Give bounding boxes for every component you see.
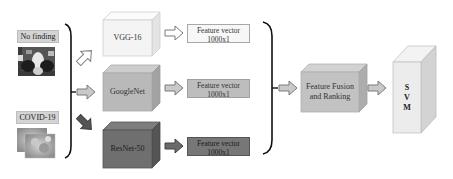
arrow-up-right-icon [75, 47, 95, 67]
fusion-label-line2: and Ranking [310, 92, 351, 102]
vgg16-label: VGG-16 [114, 33, 142, 43]
model-vgg16-block: VGG-16 [103, 12, 160, 56]
arrow-right-icon [76, 84, 96, 100]
covid-text: COVID-19 [20, 113, 56, 122]
fusion-label-line1: Feature Fusion [306, 82, 354, 92]
model-resnet50-block: ResNet-50 [103, 122, 160, 168]
svm-letter-v: V [404, 93, 410, 103]
arrow-right-icon [164, 80, 184, 96]
arrow-down-right-icon [75, 113, 95, 133]
feature-vector-title: Feature vector [188, 139, 249, 148]
feature-vector-size: 1000x1 [188, 35, 249, 44]
arrow-right-icon [367, 80, 387, 96]
feature-vector-size: 1000x1 [188, 90, 249, 99]
feature-vector-title: Feature vector [188, 26, 249, 35]
feature-fusion-block: Feature Fusion and Ranking [301, 64, 367, 112]
ct-scan-image-icon [17, 128, 55, 158]
feature-vector-resnet50: Feature vector 1000x1 [187, 137, 250, 156]
input-label-covid: COVID-19 [16, 111, 59, 124]
arrow-right-icon [164, 25, 184, 41]
arrow-right-icon [278, 80, 298, 96]
input-label-no-finding: No finding [17, 30, 59, 43]
arrow-right-icon [164, 138, 184, 154]
googlenet-label: GoogleNet [110, 87, 145, 97]
covid-image [17, 128, 55, 158]
right-bracket [262, 20, 278, 156]
svm-letter-m: M [403, 103, 411, 113]
feature-vector-title: Feature vector [188, 81, 249, 90]
model-googlenet-block: GoogleNet [103, 65, 160, 111]
feature-vector-vgg16: Feature vector 1000x1 [187, 24, 250, 43]
svm-letter-s: S [405, 83, 409, 93]
left-bracket [64, 22, 76, 162]
no-finding-image [18, 47, 55, 76]
feature-vector-googlenet: Feature vector 1000x1 [187, 79, 250, 98]
resnet50-label: ResNet-50 [110, 144, 144, 154]
no-finding-text: No finding [21, 32, 56, 41]
svm-classifier-block: S V M [393, 46, 436, 133]
feature-vector-size: 1000x1 [188, 148, 249, 157]
xray-image-icon [18, 47, 55, 76]
